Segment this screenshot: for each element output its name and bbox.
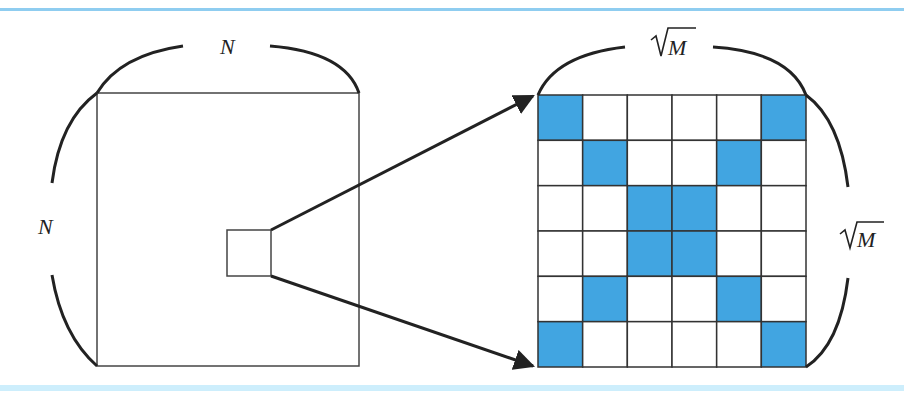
grid-cell bbox=[583, 231, 628, 276]
grid-cell bbox=[627, 186, 672, 231]
grid-cell bbox=[761, 322, 806, 367]
grid-cell bbox=[627, 276, 672, 321]
svg-text:M: M bbox=[667, 35, 688, 60]
side-bracket-left bbox=[52, 93, 97, 366]
grid-cell bbox=[672, 95, 717, 140]
grid-cell bbox=[672, 322, 717, 367]
grid-cell bbox=[717, 186, 762, 231]
grid-cell bbox=[717, 231, 762, 276]
window-square bbox=[227, 230, 271, 276]
arrow-bottom bbox=[271, 276, 533, 366]
grid-cell bbox=[627, 95, 672, 140]
grid-cell bbox=[761, 186, 806, 231]
grid-cell bbox=[583, 186, 628, 231]
grid-cell bbox=[761, 276, 806, 321]
grid-cell bbox=[672, 186, 717, 231]
grid-cell bbox=[627, 322, 672, 367]
grid-cell bbox=[583, 95, 628, 140]
grid-cell bbox=[761, 95, 806, 140]
grid-cell bbox=[717, 95, 762, 140]
arrow-top bbox=[271, 96, 533, 230]
grid-cell bbox=[627, 140, 672, 185]
left-side-label: N bbox=[37, 214, 54, 239]
svg-text:M: M bbox=[856, 227, 877, 252]
grid-cell bbox=[717, 322, 762, 367]
side-bracket-right bbox=[806, 95, 848, 367]
grid-cell bbox=[538, 140, 583, 185]
grid-cell bbox=[538, 95, 583, 140]
grid-cell bbox=[717, 276, 762, 321]
grid-cell bbox=[583, 140, 628, 185]
right-side-label: M bbox=[840, 222, 884, 252]
diagram-canvas: N N M M bbox=[0, 0, 904, 398]
grid-cell bbox=[672, 276, 717, 321]
left-top-label: N bbox=[219, 34, 236, 59]
grid-cell bbox=[672, 231, 717, 276]
grid-cell bbox=[761, 140, 806, 185]
grid-cell bbox=[538, 231, 583, 276]
right-top-label: M bbox=[651, 28, 696, 60]
grid-cell bbox=[583, 276, 628, 321]
grid-cell bbox=[538, 322, 583, 367]
grid-cell bbox=[538, 186, 583, 231]
grid-cell bbox=[761, 231, 806, 276]
zoomed-grid bbox=[538, 95, 806, 367]
grid-cell bbox=[627, 231, 672, 276]
grid-cell bbox=[583, 322, 628, 367]
grid-cell bbox=[672, 140, 717, 185]
grid-cell bbox=[717, 140, 762, 185]
grid-cell bbox=[538, 276, 583, 321]
